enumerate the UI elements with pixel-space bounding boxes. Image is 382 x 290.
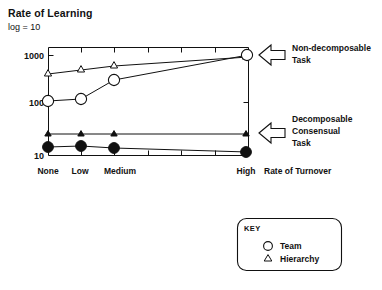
right-axis-ticks (244, 56, 249, 103)
data-point-marker (45, 131, 51, 136)
data-point-marker (43, 142, 54, 153)
data-point-marker (109, 143, 120, 154)
figure-container: Rate of Learning log = 10 (0, 0, 382, 290)
legend-key-box: KEY Team Hierarchy (238, 219, 342, 271)
y-tick-label-100: 100 (29, 98, 44, 108)
left-arrow-icon (259, 123, 285, 143)
left-arrow-icon (259, 45, 285, 65)
annotation-line: Decomposable (292, 114, 353, 124)
data-point-marker (110, 62, 117, 68)
x-axis-title: Rate of Turnover (264, 166, 332, 176)
circle-open-icon (264, 242, 273, 251)
series-team-decomposable (43, 141, 252, 158)
x-tick-label-none: None (37, 166, 59, 176)
annotation-non-decomposable: Non-decomposable Task (259, 43, 371, 65)
annotation-line: Non-decomposable (292, 43, 371, 53)
series-team-nondecomposable (42, 49, 252, 106)
data-point-marker (75, 93, 86, 104)
data-point-marker (42, 95, 53, 106)
annotation-line: Task (292, 138, 311, 148)
y-tick-label-10: 10 (34, 151, 44, 161)
data-point-marker (241, 49, 252, 60)
data-point-marker (108, 74, 119, 85)
data-point-marker (78, 131, 84, 136)
y-tick-label-1000: 1000 (24, 51, 44, 61)
x-tick-label-medium: Medium (104, 166, 137, 176)
chart-svg: Rate of Learning log = 10 (0, 0, 382, 290)
data-point-marker (77, 66, 84, 72)
data-point-marker (44, 70, 51, 76)
legend-label-team: Team (280, 241, 302, 251)
annotation-line: Task (292, 55, 311, 65)
data-point-marker (241, 147, 252, 158)
series-hierarchy-nondecomposable (44, 53, 249, 76)
top-axis-ticks (82, 48, 216, 53)
data-point-marker (76, 141, 87, 152)
bottom-axis-ticks (82, 151, 216, 156)
annotation-decomposable-consensual: Decomposable Consensual Task (259, 114, 353, 148)
x-tick-label-low: Low (72, 166, 89, 176)
legend-label-hierarchy: Hierarchy (280, 254, 319, 264)
x-tick-label-high: High (237, 166, 256, 176)
series-hierarchy-decomposable (45, 131, 249, 136)
legend-title: KEY (244, 224, 261, 233)
data-point-marker (111, 131, 117, 136)
chart-title: Rate of Learning (8, 7, 92, 19)
chart-subtitle: log = 10 (8, 22, 40, 32)
annotation-line: Consensual (292, 126, 340, 136)
